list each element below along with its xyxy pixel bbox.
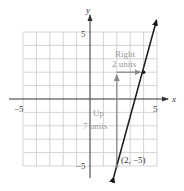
up-label-line2: 7 units — [83, 121, 108, 131]
y-axis-label: y — [85, 5, 90, 15]
graphed-line — [114, 20, 157, 177]
y-tick-neg5: −5 — [76, 161, 86, 171]
x-tick-neg5: −5 — [14, 104, 24, 114]
point-label: (2, −5) — [121, 155, 146, 165]
y-tick-5: 5 — [81, 29, 86, 39]
right-label-line2: 2 units — [112, 59, 137, 69]
point-4-2 — [142, 70, 146, 74]
up-label-line1: Up — [93, 108, 104, 118]
coordinate-plane-figure: x y −5 5 5 −5 Right 2 units Up 7 units (… — [0, 0, 184, 191]
x-axis-label: x — [171, 94, 176, 104]
point-2-neg5 — [115, 164, 119, 168]
x-tick-5: 5 — [153, 104, 158, 114]
right-label-line1: Right — [115, 49, 136, 59]
